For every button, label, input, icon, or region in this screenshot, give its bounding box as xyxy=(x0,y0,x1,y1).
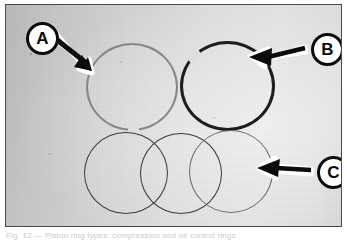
callout-badge-c[interactable]: C xyxy=(317,156,342,189)
piston-ring-a-sheen xyxy=(86,43,178,131)
figure-caption: Fig. 12 — Piston ring types: compression… xyxy=(6,231,341,243)
callout-badge-b[interactable]: B xyxy=(311,33,342,66)
callout-label-c: C xyxy=(327,164,339,181)
photo-frame: A B C xyxy=(5,4,342,227)
callout-label-a: A xyxy=(36,30,48,47)
surface-speck xyxy=(48,153,52,155)
surface-speck xyxy=(30,53,32,55)
piston-ring-c3 xyxy=(189,130,273,213)
callout-label-b: B xyxy=(321,41,333,58)
figure-page: A B C Fig. 12 — Piston ring types: compr… xyxy=(0,0,347,244)
callout-badge-a[interactable]: A xyxy=(26,22,59,55)
